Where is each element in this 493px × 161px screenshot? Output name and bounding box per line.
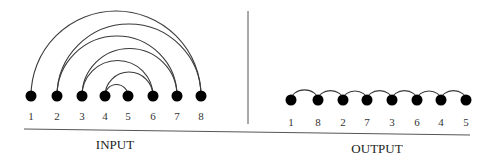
input-edge-2-7: [57, 36, 177, 96]
input-node-label: 5: [125, 110, 131, 122]
input-nodes: [26, 91, 207, 102]
output-node-3: [387, 95, 398, 106]
output-node-label: 7: [364, 116, 370, 128]
diagram-canvas: 12345678 18273645 INPUT OUTPUT: [0, 0, 493, 161]
baseline-rule: [24, 129, 470, 135]
input-node-3: [77, 91, 88, 102]
output-labels: 18273645: [288, 116, 469, 128]
output-node-label: 6: [414, 116, 420, 128]
output-nodes: [286, 95, 472, 106]
output-caption: OUTPUT: [351, 141, 402, 156]
input-node-6: [148, 91, 159, 102]
input-edge-2-8: [57, 24, 201, 96]
output-node-7: [362, 95, 373, 106]
output-node-label: 4: [438, 116, 444, 128]
input-node-label: 1: [28, 110, 34, 122]
input-node-2: [52, 91, 63, 102]
output-node-8: [313, 95, 324, 106]
output-node-label: 1: [288, 116, 294, 128]
output-node-label: 3: [389, 116, 395, 128]
output-node-6: [412, 95, 423, 106]
input-node-label: 2: [54, 110, 60, 122]
output-node-4: [436, 95, 447, 106]
output-node-label: 5: [463, 116, 469, 128]
output-node-2: [338, 95, 349, 106]
output-node-5: [461, 95, 472, 106]
output-node-1: [286, 95, 297, 106]
output-node-label: 2: [340, 116, 346, 128]
input-node-7: [172, 91, 183, 102]
input-caption: INPUT: [96, 137, 134, 152]
input-node-label: 7: [174, 110, 180, 122]
input-node-1: [26, 91, 37, 102]
input-arcs: [31, 11, 201, 96]
input-labels: 12345678: [28, 110, 204, 122]
input-node-label: 6: [150, 110, 156, 122]
output-node-label: 8: [315, 116, 321, 128]
input-node-label: 3: [79, 110, 85, 122]
input-node-4: [100, 91, 111, 102]
input-node-label: 4: [102, 110, 108, 122]
input-node-8: [196, 91, 207, 102]
input-node-label: 8: [198, 110, 204, 122]
input-node-5: [123, 91, 134, 102]
